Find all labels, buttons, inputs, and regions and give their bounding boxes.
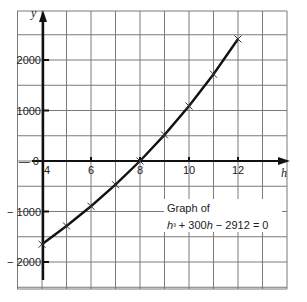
x-axis-arrow-icon xyxy=(278,157,290,165)
y-tick-label: − 2000 xyxy=(7,256,41,268)
x-tick-label: 12 xyxy=(232,164,244,176)
x-tick-label: 4 xyxy=(44,164,50,176)
annotation-line1: Graph of xyxy=(167,202,211,214)
y-tick-label: 1000 xyxy=(17,105,41,117)
chart: 4681012− 2000− 1000— 010002000 y h Graph… xyxy=(0,0,307,302)
y-tick-label: − 1000 xyxy=(7,206,41,218)
x-axis-label: h xyxy=(281,166,287,180)
y-tick-label: — 0 xyxy=(19,155,39,167)
axes xyxy=(32,10,290,280)
annotation-line2: h³ + 300h − 2912 = 0 xyxy=(167,219,268,231)
x-tick-label: 6 xyxy=(88,164,94,176)
y-axis-label: y xyxy=(30,6,37,20)
x-tick-label: 8 xyxy=(137,164,143,176)
x-tick-label: 10 xyxy=(183,164,195,176)
grid-lines xyxy=(17,11,287,289)
y-axis-arrow-icon xyxy=(39,10,47,22)
y-tick-label: 2000 xyxy=(17,54,41,66)
